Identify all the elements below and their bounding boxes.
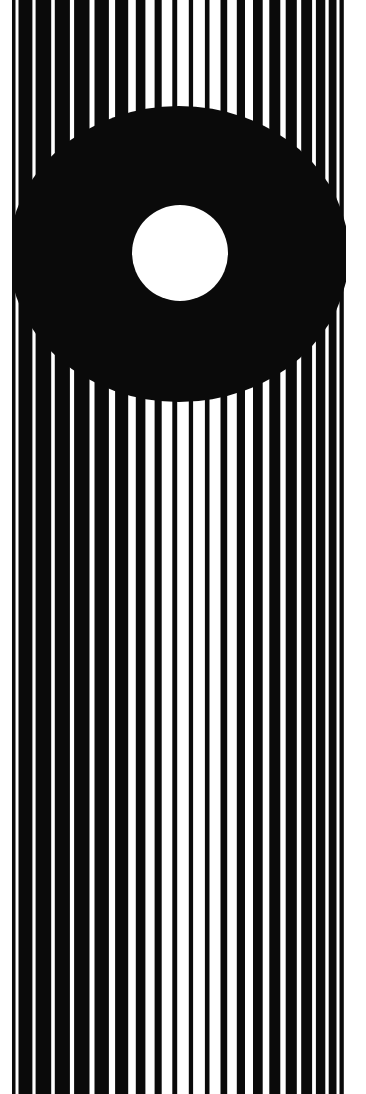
stripe [325, 0, 328, 1094]
stripe [70, 0, 74, 1094]
stripe [210, 0, 221, 1094]
stripe [90, 0, 95, 1094]
stripe [337, 0, 340, 1094]
stripe [145, 0, 154, 1094]
stripe [344, 0, 346, 1094]
stripe [109, 0, 115, 1094]
stripe [263, 0, 270, 1094]
stripe [297, 0, 301, 1094]
stripe [193, 0, 205, 1094]
artwork-canvas: Striped Field with Black Lens and White … [0, 0, 366, 1094]
stripe [227, 0, 237, 1094]
artwork-svg-surface [0, 0, 366, 1094]
stripe [162, 0, 173, 1094]
stripe [280, 0, 285, 1094]
stripe [128, 0, 136, 1094]
stripe [51, 0, 55, 1094]
white-disc [132, 205, 228, 301]
stripe [32, 0, 35, 1094]
left-margin [0, 0, 12, 1094]
stripe [245, 0, 253, 1094]
stripe [312, 0, 316, 1094]
right-margin [346, 0, 366, 1094]
stripe [177, 0, 189, 1094]
stripe [16, 0, 19, 1094]
